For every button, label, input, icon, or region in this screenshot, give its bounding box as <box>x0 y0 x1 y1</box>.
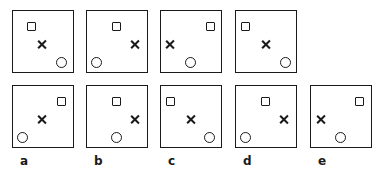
circle-icon <box>204 132 215 143</box>
circle-icon <box>17 132 28 143</box>
option-panel-e <box>310 85 372 148</box>
option-panel-d <box>235 85 297 148</box>
option-label-d: d <box>243 154 252 168</box>
cross-icon <box>165 40 175 50</box>
option-panel-a <box>12 85 74 148</box>
circle-icon <box>91 57 102 68</box>
circle-icon <box>56 57 67 68</box>
cross-icon <box>130 40 140 50</box>
cross-icon <box>316 115 326 125</box>
square-icon <box>57 97 66 106</box>
sample-panel-1 <box>12 10 74 73</box>
square-icon <box>166 97 175 106</box>
circle-icon <box>111 132 122 143</box>
cross-icon <box>186 115 196 125</box>
sample-panel-3 <box>160 10 222 73</box>
option-label-a: a <box>20 154 28 168</box>
option-label-c: c <box>168 154 175 168</box>
cross-icon <box>261 40 271 50</box>
square-icon <box>112 22 121 31</box>
cross-icon <box>130 115 140 125</box>
square-icon <box>206 22 215 31</box>
cross-icon <box>37 115 47 125</box>
option-panel-c <box>160 85 222 148</box>
option-label-e: e <box>318 154 326 168</box>
circle-icon <box>335 132 346 143</box>
square-icon <box>261 97 270 106</box>
square-icon <box>112 97 121 106</box>
square-icon <box>355 97 364 106</box>
circle-icon <box>185 57 196 68</box>
option-label-b: b <box>94 154 103 168</box>
circle-icon <box>280 57 291 68</box>
sample-panel-4 <box>235 10 297 73</box>
square-icon <box>241 22 250 31</box>
circle-icon <box>240 132 251 143</box>
square-icon <box>27 22 36 31</box>
option-panel-b <box>86 85 148 148</box>
sample-panel-2 <box>86 10 148 73</box>
cross-icon <box>279 115 289 125</box>
cross-icon <box>37 40 47 50</box>
